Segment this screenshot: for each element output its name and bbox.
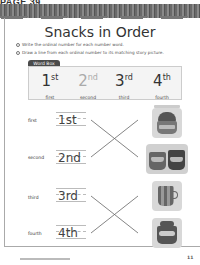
answer-field-second[interactable]: 2nd	[56, 150, 86, 164]
answer-field-first[interactable]: 1st	[56, 112, 86, 126]
answer-field-third[interactable]: 3rd	[56, 188, 86, 202]
decorative-header-band	[0, 4, 200, 18]
footer-copyright	[20, 258, 70, 260]
instruction-bullet-icon	[16, 43, 20, 47]
two-mugs-picture[interactable]	[146, 144, 188, 174]
mug-with-snack-picture[interactable]	[152, 218, 182, 248]
row-label-first: first	[28, 118, 37, 123]
footer-page-number: 11	[187, 255, 193, 260]
row-label-second: second	[28, 155, 44, 160]
instruction-2: Draw a line from each ordinal number to …	[16, 50, 164, 55]
mug-with-cupcake-picture[interactable]	[152, 108, 182, 138]
word-box: 1st first 2nd second 3rd third 4th fourt…	[28, 66, 182, 100]
word-box-item-second: 2nd second	[69, 69, 107, 100]
instruction-bullet-icon	[16, 51, 20, 55]
word-box-item-fourth: 4th fourth	[143, 69, 181, 100]
row-label-third: third	[28, 195, 39, 200]
striped-mug-picture[interactable]	[152, 181, 182, 211]
instruction-1: Write the ordinal number for each number…	[16, 42, 124, 47]
word-box-item-first: 1st first	[31, 69, 69, 100]
answer-field-fourth[interactable]: 4th	[56, 225, 86, 239]
word-box-item-third: 3rd third	[105, 69, 143, 100]
page-title: Snacks in Order	[0, 24, 200, 40]
row-label-fourth: fourth	[28, 231, 42, 236]
